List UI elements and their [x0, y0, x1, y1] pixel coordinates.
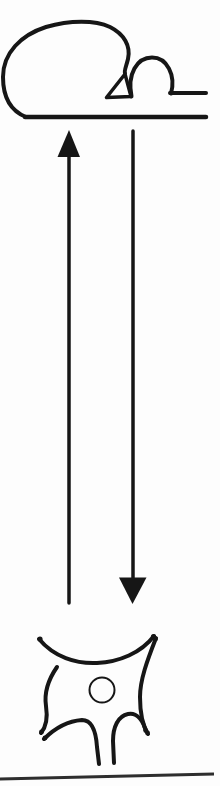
figure-canvas — [0, 0, 220, 786]
cell-left-edge — [41, 667, 57, 733]
nucleus-circle — [90, 678, 115, 703]
stroke-flare-dot — [39, 730, 44, 735]
cell-right-edge — [140, 638, 156, 734]
stroke-flare-dot — [43, 736, 48, 741]
terminal-body-outline — [3, 22, 129, 117]
downward-arrow-icon — [119, 131, 147, 604]
cell-top-edge — [39, 636, 154, 663]
cell-lower-left-process — [44, 720, 99, 764]
synaptic-dome-bump — [130, 58, 172, 97]
downward-arrowhead — [119, 578, 147, 605]
diagram-figure — [0, 0, 220, 786]
stellate-cell — [37, 634, 158, 764]
page-rule-line — [0, 774, 214, 779]
upward-arrow-icon — [58, 130, 81, 603]
terminal-structure — [3, 22, 206, 117]
stroke-flare-dot — [37, 636, 42, 641]
stroke-flare-dot — [153, 637, 158, 642]
upward-arrowhead — [58, 130, 81, 157]
stroke-flare-dot — [143, 728, 147, 732]
membrane-notch-triangle-icon — [107, 74, 132, 98]
